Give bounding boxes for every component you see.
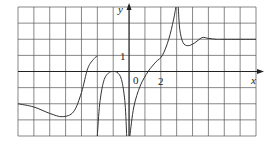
y-axis-arrow-icon [127, 3, 132, 10]
tick-label-y-1: 1 [120, 50, 126, 62]
x-axis-arrow-icon [257, 69, 264, 74]
y-axis-label: y [117, 3, 123, 15]
curve-piece-1 [18, 56, 97, 117]
tick-label-x-2: 2 [158, 75, 164, 87]
curve-piece-4 [178, 7, 256, 46]
x-axis-label: x [250, 74, 256, 86]
function-graph: y x 0 1 2 [0, 0, 269, 149]
origin-label: 0 [133, 74, 139, 86]
